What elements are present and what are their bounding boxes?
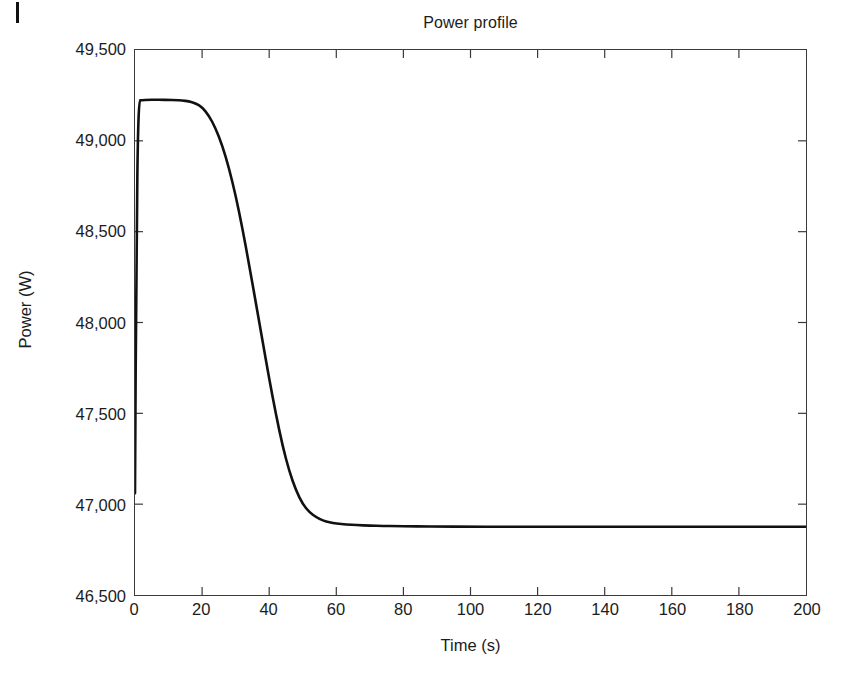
x-tick-label: 40 [259, 600, 277, 619]
y-tick-label: 48,000 [76, 313, 126, 332]
y-tick-label: 47,500 [76, 404, 126, 423]
x-tick-label: 20 [192, 600, 210, 619]
x-axis-title: Time (s) [134, 636, 807, 655]
chart-title: Power profile [134, 14, 807, 32]
x-tick-label: 0 [129, 600, 138, 619]
y-tick-label: 47,000 [76, 495, 126, 514]
x-axis-tick-labels: 020406080100120140160180200 [134, 600, 807, 626]
x-tick-label: 60 [327, 600, 345, 619]
axis-ticks [135, 50, 806, 595]
x-tick-label: 100 [457, 600, 485, 619]
x-tick-label: 80 [394, 600, 412, 619]
y-tick-label: 46,500 [76, 587, 126, 606]
x-tick-label: 160 [659, 600, 687, 619]
x-tick-label: 140 [591, 600, 619, 619]
x-tick-label: 180 [726, 600, 754, 619]
plot-area [134, 49, 807, 596]
power-series-line [135, 100, 806, 527]
scan-mark-artifact [16, 2, 19, 23]
y-tick-label: 49,000 [76, 131, 126, 150]
x-tick-label: 200 [793, 600, 821, 619]
y-tick-label: 49,500 [76, 40, 126, 59]
plot-svg [135, 50, 806, 595]
y-tick-label: 48,500 [76, 222, 126, 241]
x-tick-label: 120 [524, 600, 552, 619]
y-axis-tick-labels: 46,50047,00047,50048,00048,50049,00049,5… [0, 49, 126, 596]
figure-canvas: Power profile Power (W) 46,50047,00047,5… [0, 0, 855, 680]
